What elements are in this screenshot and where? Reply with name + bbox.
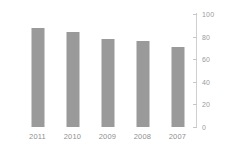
bar-2007 [171, 47, 184, 127]
bar-2008 [136, 41, 149, 127]
bar-slot [160, 14, 195, 127]
y-tick-mark [193, 59, 197, 60]
y-tick-label: 100 [202, 11, 214, 18]
y-tick-mark [193, 127, 197, 128]
y-axis-line [196, 13, 197, 128]
bar-2010 [66, 32, 79, 127]
bar-2011 [31, 28, 44, 127]
y-tick-label: 0 [202, 124, 206, 131]
x-tick-label: 2008 [125, 133, 160, 141]
x-axis: 20112010200920082007 [20, 133, 196, 147]
bar-chart: 020406080100 20112010200920082007 [0, 0, 237, 154]
y-tick-mark [193, 82, 197, 83]
y-tick-mark [193, 37, 197, 38]
y-tick-label: 40 [202, 78, 210, 85]
y-tick-label: 20 [202, 101, 210, 108]
x-tick-label: 2011 [20, 133, 55, 141]
y-tick-mark [193, 104, 197, 105]
bar-slot [55, 14, 90, 127]
y-tick-label: 80 [202, 33, 210, 40]
bar-2009 [101, 39, 114, 127]
x-tick-label: 2009 [90, 133, 125, 141]
bar-slot [125, 14, 160, 127]
plot-area [20, 14, 196, 127]
bar-slot [90, 14, 125, 127]
x-tick-label: 2007 [160, 133, 195, 141]
x-tick-label: 2010 [55, 133, 90, 141]
y-tick-label: 60 [202, 56, 210, 63]
y-tick-mark [193, 14, 197, 15]
bar-slot [20, 14, 55, 127]
